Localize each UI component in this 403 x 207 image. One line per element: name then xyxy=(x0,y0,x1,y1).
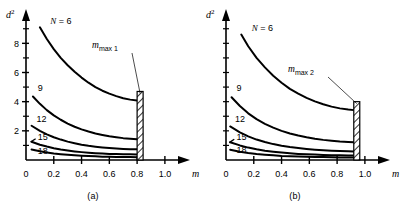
curve-9 xyxy=(33,97,137,140)
x-tick-label: 0 xyxy=(223,169,228,179)
x-tick-label: 0.4 xyxy=(275,169,288,179)
curve-label-9: 9 xyxy=(236,83,241,93)
barrier-hatched-bar xyxy=(137,91,143,160)
curve-label-12: 12 xyxy=(235,114,245,124)
axes-a: 246800.20.40.60.81.0d2mmmax 1N = 6912151… xyxy=(6,8,199,179)
x-tick-label: 0.8 xyxy=(331,169,344,179)
y-axis-label-exponent: 2 xyxy=(211,8,215,16)
x-axis-label: m xyxy=(392,168,399,179)
y-tick-label: 8 xyxy=(14,39,19,49)
plot-svg-b: 00.20.40.60.81.0d2mmmax 2N = 69121518 xyxy=(200,0,403,207)
barrier-hatched-bar xyxy=(354,102,360,160)
y-axis-arrow xyxy=(222,9,230,21)
barrier-annotation-subscript: max 1 xyxy=(99,45,118,52)
x-tick-label: 0.2 xyxy=(48,169,61,179)
y-axis-arrow xyxy=(22,9,30,21)
curve-label-n-value: = 6 xyxy=(56,16,71,26)
axes-b: 00.20.40.60.81.0d2mmmax 2N = 69121518 xyxy=(206,8,399,179)
x-tick-label: 0.6 xyxy=(103,169,116,179)
chart-panel-b: 00.20.40.60.81.0d2mmmax 2N = 69121518 (b… xyxy=(200,0,402,207)
figure-two-panel-chart: 246800.20.40.60.81.0d2mmmax 1N = 6912151… xyxy=(0,0,403,207)
x-axis-arrow xyxy=(378,156,390,164)
x-axis-label: m xyxy=(192,168,199,179)
plot-svg-a: 246800.20.40.60.81.0d2mmmax 1N = 6912151… xyxy=(0,0,202,207)
y-axis-label: d2 xyxy=(206,8,215,20)
curve-label-n-value: = 6 xyxy=(258,23,273,33)
curve-label-6: N = 6 xyxy=(251,23,273,33)
y-tick-label: 6 xyxy=(14,68,19,78)
panel-caption-a: (a) xyxy=(0,191,194,201)
x-axis-arrow xyxy=(178,156,190,164)
x-tick-label: 1.0 xyxy=(159,169,172,179)
curve-label-18: 18 xyxy=(236,145,246,155)
curve-9 xyxy=(232,97,354,142)
x-tick-label: 0.2 xyxy=(248,169,261,179)
barrier-annotation-leader xyxy=(328,77,357,104)
curve-label-15: 15 xyxy=(236,132,246,142)
curve-label-6: N = 6 xyxy=(49,16,71,26)
curve-label-15: 15 xyxy=(38,132,48,142)
x-tick-label: 0 xyxy=(23,169,28,179)
y-tick-label: 2 xyxy=(14,126,19,136)
curve-6 xyxy=(40,27,137,100)
chart-panel-a: 246800.20.40.60.81.0d2mmmax 1N = 6912151… xyxy=(0,0,202,207)
curve-label-12: 12 xyxy=(36,114,46,124)
x-tick-label: 0.4 xyxy=(75,169,88,179)
curve-label-18: 18 xyxy=(38,146,48,156)
y-tick-label: 4 xyxy=(14,97,19,107)
barrier-annotation-subscript: max 2 xyxy=(295,69,314,76)
barrier-annotation-leader xyxy=(132,53,140,93)
barrier-annotation-label: mmax 1 xyxy=(92,40,118,52)
x-tick-label: 0.8 xyxy=(131,169,144,179)
x-tick-label: 0.6 xyxy=(303,169,316,179)
curve-label-9: 9 xyxy=(38,83,43,93)
barrier-annotation-label: mmax 2 xyxy=(288,64,314,76)
y-axis-label-exponent: 2 xyxy=(11,8,15,16)
x-tick-label: 1.0 xyxy=(359,169,372,179)
y-axis-label: d2 xyxy=(6,8,15,20)
panel-caption-b: (b) xyxy=(194,191,396,201)
